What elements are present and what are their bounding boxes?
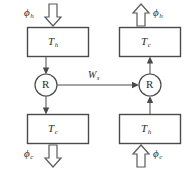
block-arrow-top-right <box>133 4 149 26</box>
flux-label-top-right-subscript: h <box>159 12 163 20</box>
flux-label-top-left-symbol: ϕ <box>24 6 30 18</box>
flux-label-bottom-right-symbol: ϕ <box>153 147 159 159</box>
diagram-graphics <box>0 0 188 171</box>
box-label-bottom-right: Th <box>141 123 151 134</box>
box-label-bottom-left-subscript: c <box>55 128 58 136</box>
flux-label-bottom-left-symbol: ϕ <box>24 147 30 159</box>
flux-label-bottom-left: ϕc <box>24 148 33 159</box>
flux-label-top-right-symbol: ϕ <box>153 6 159 18</box>
box-bottom-left <box>28 115 89 144</box>
box-label-top-right-subscript: c <box>148 41 151 49</box>
flux-label-top-left: ϕh <box>24 7 33 18</box>
box-label-bottom-left-symbol: T <box>48 122 54 134</box>
box-label-top-left: Th <box>48 36 58 47</box>
block-arrow-bottom-right <box>133 145 149 167</box>
flux-label-bottom-left-subscript: c <box>30 153 33 161</box>
flux-label-bottom-right: ϕc <box>153 148 162 159</box>
node-label-left: R <box>42 79 49 90</box>
work-link-symbol: W <box>88 69 96 80</box>
work-link-subscript: s <box>97 74 100 82</box>
flux-label-top-left-subscript: h <box>30 12 34 20</box>
box-label-top-left-subscript: h <box>55 41 59 49</box>
work-link-label: Ws <box>88 70 99 80</box>
flux-label-top-right: ϕh <box>153 7 162 18</box>
box-top-left <box>28 28 89 57</box>
diagram-canvas: Th Tc Tc Th R R Ws ϕh ϕc ϕh ϕc <box>0 0 188 171</box>
box-label-bottom-left: Tc <box>48 123 57 134</box>
arrowhead-left-node-to-bottomleft <box>43 108 49 115</box>
arrowhead-bottomright-to-right-node <box>147 96 153 103</box>
box-label-bottom-right-symbol: T <box>141 122 147 134</box>
arrowhead-topleft-to-left-node <box>43 68 49 75</box>
block-arrow-top-left <box>45 4 61 26</box>
work-link-arrowhead <box>132 82 139 88</box>
box-label-top-right: Tc <box>141 36 150 47</box>
box-label-top-left-symbol: T <box>48 35 54 47</box>
block-arrow-bottom-left <box>45 145 61 167</box>
box-label-top-right-symbol: T <box>141 35 147 47</box>
arrowhead-right-node-to-topright <box>147 57 153 64</box>
box-label-bottom-right-subscript: h <box>148 128 152 136</box>
flux-label-bottom-right-subscript: c <box>159 153 162 161</box>
node-label-right: R <box>146 79 153 90</box>
